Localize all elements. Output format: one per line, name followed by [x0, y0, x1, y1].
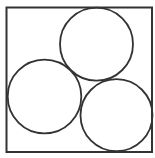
bottom-right-circle — [81, 79, 153, 151]
circles-in-square-diagram — [0, 0, 155, 158]
left-circle — [8, 60, 82, 134]
